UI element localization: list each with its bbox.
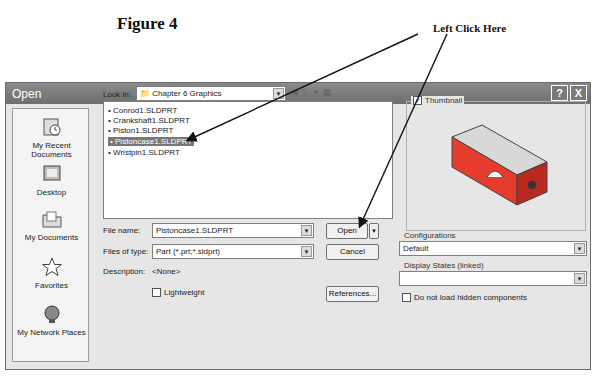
thumbnail-group: ✓Thumbnail <box>406 101 586 231</box>
file-list[interactable]: • Conrod1.SLDPRT • Crankshaft1.SLDPRT • … <box>103 101 393 219</box>
callout-label: Left Click Here <box>433 22 506 34</box>
chevron-down-icon: ▼ <box>301 246 312 257</box>
desktop-icon <box>41 164 63 184</box>
new-folder-icon[interactable]: ✦ <box>312 87 323 97</box>
files-of-type-dropdown[interactable]: Part (*.prt;*.sldprt) ▼ <box>152 244 314 259</box>
display-states-dropdown[interactable]: ▼ <box>399 271 587 286</box>
file-item[interactable]: • Conrod1.SLDPRT <box>108 106 177 115</box>
open-dialog: Open ? X My Recent Documents Desktop My … <box>5 82 591 370</box>
open-button[interactable]: Open <box>326 223 368 239</box>
look-in-label: Look in: <box>103 90 131 99</box>
part-preview-image <box>442 117 552 212</box>
checkbox-checked-icon: ✓ <box>413 96 422 105</box>
configurations-label: Configurations <box>402 231 458 240</box>
file-item[interactable]: • Piston1.SLDPRT <box>108 126 173 135</box>
places-bar: My Recent Documents Desktop My Documents… <box>12 108 89 362</box>
open-options-dropdown[interactable]: ▼ <box>369 223 379 239</box>
chevron-down-icon: ▼ <box>273 88 284 99</box>
help-button[interactable]: ? <box>551 85 568 101</box>
dialog-title: Open <box>12 87 41 101</box>
network-places-icon <box>41 304 63 324</box>
place-my-recent-documents[interactable]: My Recent Documents <box>13 117 90 159</box>
thumbnail-checkbox[interactable]: ✓Thumbnail <box>411 96 464 105</box>
my-documents-icon <box>41 209 63 229</box>
display-states-label: Display States (linked) <box>402 261 486 270</box>
chevron-down-icon: ▼ <box>574 273 585 284</box>
folder-icon: 📁 <box>140 89 152 98</box>
chevron-down-icon: ▼ <box>301 225 312 236</box>
place-my-documents[interactable]: My Documents <box>13 209 90 242</box>
checkbox-icon <box>152 288 161 297</box>
nav-toolbar: ◀⇧✦▦ <box>291 87 335 97</box>
favorites-star-icon <box>41 257 63 277</box>
look-in-dropdown[interactable]: 📁 Chapter 6 Graphics ▼ <box>136 86 286 101</box>
hidden-components-checkbox[interactable]: Do not load hidden components <box>402 293 527 302</box>
chevron-down-icon: ▼ <box>574 243 585 254</box>
file-item-selected[interactable]: • Pistoncase1.SLDPRT <box>108 137 194 146</box>
view-menu-icon[interactable]: ▦ <box>323 87 335 97</box>
cancel-button[interactable]: Cancel <box>326 244 379 260</box>
configurations-dropdown[interactable]: Default ▼ <box>399 241 587 256</box>
description-value: <None> <box>152 267 180 276</box>
checkbox-icon <box>402 293 411 302</box>
close-button[interactable]: X <box>570 85 587 101</box>
place-my-network-places[interactable]: My Network Places <box>13 304 90 337</box>
description-label: Description: <box>103 267 145 276</box>
file-item[interactable]: • Wristpin1.SLDPRT <box>108 148 180 157</box>
place-favorites[interactable]: Favorites <box>13 257 90 290</box>
recent-documents-icon <box>41 117 63 137</box>
lightweight-checkbox[interactable]: Lightweight <box>152 288 204 297</box>
files-of-type-label: Files of type: <box>103 247 148 256</box>
file-name-label: File name: <box>103 226 140 235</box>
place-desktop[interactable]: Desktop <box>13 164 90 197</box>
up-folder-icon[interactable]: ⇧ <box>301 87 312 97</box>
references-button[interactable]: References... <box>326 286 379 302</box>
figure-title: Figure 4 <box>117 14 178 34</box>
file-item[interactable]: • Crankshaft1.SLDPRT <box>108 116 190 125</box>
file-name-input[interactable]: Pistoncase1.SLDPRT ▼ <box>152 223 314 238</box>
back-icon[interactable]: ◀ <box>291 87 301 97</box>
